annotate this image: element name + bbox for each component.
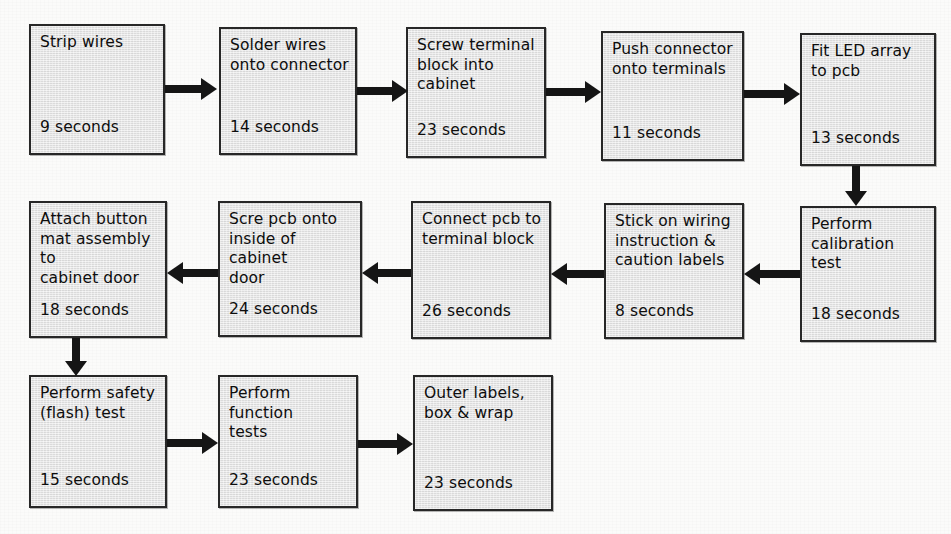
node-label: Fit LED array to pcb (811, 42, 929, 81)
arrow-head (784, 83, 800, 105)
process-node-solder-wires[interactable]: Solder wires onto connector 14 seconds (219, 27, 357, 155)
arrow-shaft (546, 88, 587, 96)
edge-arrow-n6-n7 (744, 263, 800, 285)
node-duration: 14 seconds (230, 118, 350, 138)
arrow-shaft (852, 166, 860, 193)
process-node-screw-terminal-block[interactable]: Screw terminal block into cabinet 23 sec… (406, 27, 546, 158)
node-label: Attach button mat assembly to cabinet do… (40, 210, 160, 288)
arrow-shaft (165, 85, 203, 93)
arrow-shaft (72, 338, 80, 363)
process-node-strip-wires[interactable]: Strip wires 9 seconds (29, 24, 165, 155)
arrow-shaft (376, 269, 411, 277)
edge-arrow-n4-n5 (744, 83, 800, 105)
arrow-head (551, 263, 567, 285)
process-node-outer-labels-box-wrap[interactable]: Outer labels, box & wrap 23 seconds (413, 375, 553, 511)
arrow-head (202, 432, 218, 454)
node-label: Scre pcb onto inside of cabinet door (229, 210, 355, 288)
node-label: Perform safety (flash) test (40, 384, 160, 423)
node-duration: 13 seconds (811, 129, 929, 149)
arrow-head (392, 80, 408, 102)
arrow-head (397, 433, 413, 455)
edge-arrow-n2-n3 (357, 80, 408, 102)
process-node-perform-safety-test[interactable]: Perform safety (flash) test 15 seconds (29, 375, 167, 508)
arrow-shaft (167, 439, 204, 447)
process-node-perform-calibration-test[interactable]: Perform calibration test 18 seconds (800, 206, 936, 342)
edge-arrow-n10-n11 (65, 338, 87, 376)
node-duration: 23 seconds (229, 471, 351, 491)
node-label: Push connector onto terminals (612, 40, 737, 79)
flowchart-canvas: Strip wires 9 seconds Solder wires onto … (0, 0, 951, 534)
edge-arrow-n8-n9 (362, 262, 411, 284)
node-label: Connect pcb to terminal block (422, 210, 544, 249)
process-node-perform-function-tests[interactable]: Perform function tests 23 seconds (218, 375, 358, 508)
edge-arrow-n12-n13 (358, 433, 413, 455)
edge-arrow-n1-n2 (165, 78, 217, 100)
arrow-head (585, 81, 601, 103)
arrow-shaft (357, 87, 394, 95)
arrow-head (65, 361, 87, 376)
node-label: Strip wires (40, 33, 158, 53)
node-duration: 15 seconds (40, 471, 160, 491)
node-duration: 24 seconds (229, 300, 355, 320)
arrow-shaft (358, 440, 399, 448)
arrow-shaft (181, 269, 218, 277)
node-duration: 11 seconds (612, 124, 737, 144)
process-node-push-connector[interactable]: Push connector onto terminals 11 seconds (601, 31, 744, 161)
node-duration: 8 seconds (615, 302, 737, 322)
node-label: Outer labels, box & wrap (424, 384, 546, 423)
edge-arrow-n9-n10 (167, 262, 218, 284)
node-label: Perform calibration test (811, 215, 929, 274)
edge-arrow-n7-n8 (551, 263, 604, 285)
arrow-head (201, 78, 217, 100)
arrow-head (744, 263, 760, 285)
node-duration: 18 seconds (40, 301, 160, 321)
process-node-connect-pcb[interactable]: Connect pcb to terminal block 26 seconds (411, 201, 551, 339)
process-node-stick-on-labels[interactable]: Stick on wiring instruction & caution la… (604, 203, 744, 339)
node-label: Screw terminal block into cabinet (417, 36, 539, 95)
arrow-shaft (758, 270, 800, 278)
node-duration: 23 seconds (424, 474, 546, 494)
node-label: Solder wires onto connector (230, 36, 350, 75)
edge-arrow-n11-n12 (167, 432, 218, 454)
arrow-head (362, 262, 378, 284)
arrow-head (845, 191, 867, 206)
node-duration: 9 seconds (40, 118, 158, 138)
edge-arrow-n3-n4 (546, 81, 601, 103)
node-label: Stick on wiring instruction & caution la… (615, 212, 737, 271)
arrow-shaft (744, 90, 786, 98)
process-node-attach-button-mat[interactable]: Attach button mat assembly to cabinet do… (29, 201, 167, 338)
arrow-shaft (565, 270, 604, 278)
node-duration: 26 seconds (422, 302, 544, 322)
node-duration: 18 seconds (811, 305, 929, 325)
process-node-fit-led-array[interactable]: Fit LED array to pcb 13 seconds (800, 33, 936, 166)
process-node-screw-pcb-inside-door[interactable]: Scre pcb onto inside of cabinet door 24 … (218, 201, 362, 337)
node-label: Perform function tests (229, 384, 351, 443)
edge-arrow-n5-n6 (845, 166, 867, 206)
arrow-head (167, 262, 183, 284)
node-duration: 23 seconds (417, 121, 539, 141)
